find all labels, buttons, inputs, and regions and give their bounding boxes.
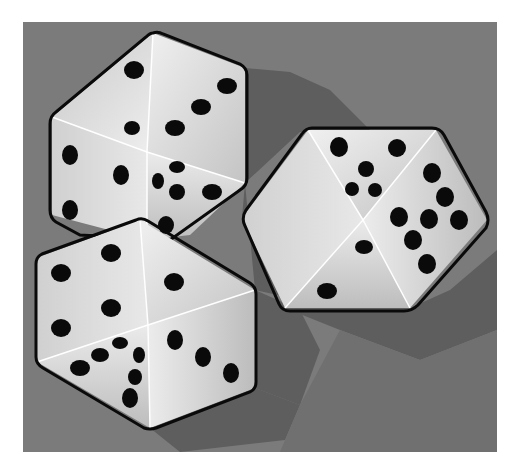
- dice-illustration: [0, 0, 517, 471]
